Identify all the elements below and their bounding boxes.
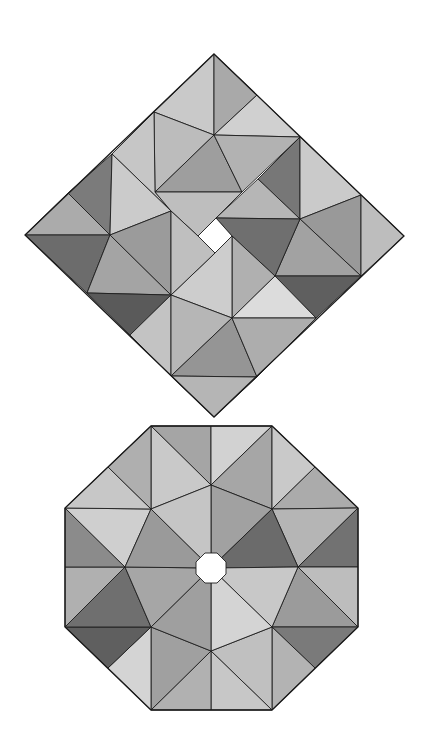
diagram-canvas bbox=[0, 0, 427, 753]
octagon-tiling bbox=[65, 426, 358, 710]
octagon-center-hole bbox=[196, 553, 226, 583]
